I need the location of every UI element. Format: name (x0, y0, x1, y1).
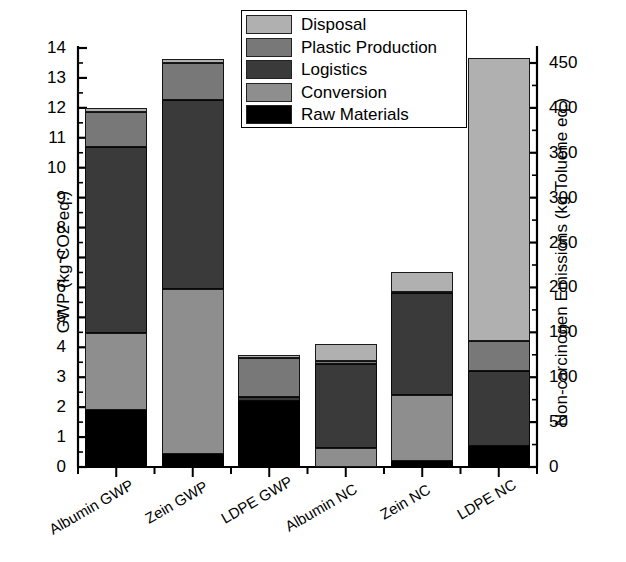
legend-label: Conversion (301, 84, 387, 101)
segment-disposal (238, 355, 300, 357)
x-tick-label-5: LDPE NC (454, 475, 519, 522)
legend-swatch-icon (246, 105, 292, 124)
left-tick-label: 5 (26, 308, 66, 325)
left-tick-label: 2 (26, 398, 66, 415)
segment-disposal (315, 344, 377, 360)
segment-raw-materials (85, 410, 147, 467)
bar-ldpe-gwp[interactable] (238, 355, 300, 467)
legend-swatch-icon (246, 83, 292, 102)
segment-logistics (468, 371, 530, 446)
right-tick-label: 350 (549, 144, 577, 161)
legend-swatch-icon (246, 15, 292, 34)
left-tick-label: 14 (26, 39, 66, 56)
x-tick-label-1: Zein GWP (142, 477, 210, 526)
right-tick-label: 250 (549, 234, 577, 251)
legend-label: Raw Materials (301, 106, 409, 123)
segment-logistics (85, 147, 147, 333)
bar-albumin-gwp[interactable] (85, 108, 147, 467)
legend-item-conversion[interactable]: Conversion (246, 82, 462, 103)
right-tick-label: 300 (549, 189, 577, 206)
segment-conversion (85, 333, 147, 410)
segment-logistics (391, 293, 453, 395)
chart-figure: GWP (kg CO2 eq.) Non-carcinogen Emission… (0, 0, 626, 562)
right-tick-label: 200 (549, 278, 577, 295)
segment-raw-materials (162, 454, 224, 467)
bar-ldpe-nc[interactable] (468, 58, 530, 467)
left-tick-label: 4 (26, 338, 66, 355)
legend-label: Plastic Production (301, 39, 437, 56)
segment-raw-materials (468, 446, 530, 467)
left-tick-label: 7 (26, 249, 66, 266)
segment-plastic-production (85, 112, 147, 146)
segment-disposal (162, 59, 224, 63)
segment-plastic-production (238, 358, 300, 397)
right-tick-label: 450 (549, 54, 577, 71)
bar-albumin-nc[interactable] (315, 344, 377, 467)
left-tick-label: 9 (26, 189, 66, 206)
left-tick-label: 12 (26, 99, 66, 116)
bar-zein-gwp[interactable] (162, 59, 224, 467)
right-tick-label: 400 (549, 99, 577, 116)
left-tick-label: 13 (26, 69, 66, 86)
legend-item-raw-materials[interactable]: Raw Materials (246, 104, 462, 125)
x-tick-label-0: Albumin GWP (46, 476, 136, 538)
segment-disposal (391, 272, 453, 291)
bar-zein-nc[interactable] (391, 272, 453, 467)
legend-swatch-icon (246, 38, 292, 57)
legend-label: Disposal (301, 16, 366, 33)
segment-plastic-production (468, 341, 530, 371)
legend-label: Logistics (301, 61, 367, 78)
right-tick-label: 0 (549, 458, 558, 475)
x-tick-label-4: Zein NC (377, 480, 433, 522)
segment-logistics (315, 364, 377, 448)
legend-box: DisposalPlastic ProductionLogisticsConve… (241, 10, 467, 128)
left-tick-label: 1 (26, 428, 66, 445)
right-axis-title: Non-carcinogen Emissions (kg Toluene eq.… (552, 72, 572, 452)
left-tick-label: 11 (26, 129, 66, 146)
left-tick-label: 3 (26, 368, 66, 385)
segment-logistics (162, 100, 224, 289)
segment-disposal (468, 58, 530, 341)
segment-disposal (85, 108, 147, 112)
right-tick-label: 50 (549, 413, 568, 430)
segment-conversion (391, 395, 453, 461)
left-tick-label: 0 (26, 458, 66, 475)
legend-item-plastic-production[interactable]: Plastic Production (246, 37, 462, 58)
right-tick-label: 150 (549, 323, 577, 340)
segment-conversion (162, 289, 224, 454)
left-tick-label: 8 (26, 219, 66, 236)
segment-conversion (315, 448, 377, 467)
segment-logistics (238, 397, 300, 401)
segment-raw-materials (391, 461, 453, 467)
segment-plastic-production (162, 63, 224, 100)
left-tick-label: 10 (26, 159, 66, 176)
legend-swatch-icon (246, 60, 292, 79)
segment-plastic-production (315, 361, 377, 364)
legend-item-disposal[interactable]: Disposal (246, 14, 462, 35)
left-tick-label: 6 (26, 278, 66, 295)
legend-item-logistics[interactable]: Logistics (246, 59, 462, 80)
segment-raw-materials (238, 401, 300, 467)
right-tick-label: 100 (549, 368, 577, 385)
